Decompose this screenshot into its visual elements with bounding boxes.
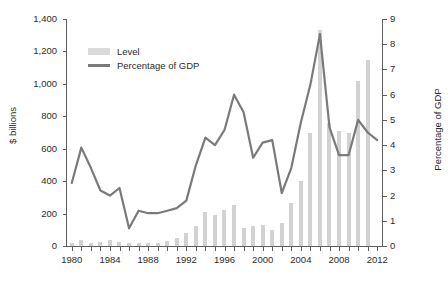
y-axis-right-tick — [383, 196, 387, 197]
legend-label-level: Level — [117, 46, 140, 57]
x-axis-tick — [186, 247, 187, 251]
y-axis-right-tick-label: 5 — [390, 114, 414, 125]
chart-container: $ billions Percentage of GDP 02004006008… — [0, 0, 448, 286]
x-axis-tick — [291, 247, 292, 251]
x-axis-tick — [158, 247, 159, 251]
legend-bar-swatch-icon — [88, 48, 110, 55]
x-axis-tick — [81, 247, 82, 251]
x-axis-tick — [205, 247, 206, 251]
x-axis-tick — [349, 247, 350, 251]
y-axis-right-tick — [383, 170, 387, 171]
y-axis-left-title: $ billions — [7, 96, 18, 156]
y-axis-right-line — [382, 19, 383, 246]
x-axis-tick-label: 1988 — [128, 254, 168, 265]
x-axis-tick — [368, 247, 369, 251]
x-axis-tick — [196, 247, 197, 251]
x-axis-tick — [282, 247, 283, 251]
y-axis-right-tick-label: 3 — [390, 164, 414, 175]
x-axis-tick — [110, 247, 111, 251]
x-axis-tick — [91, 247, 92, 251]
x-axis-tick — [244, 247, 245, 251]
y-axis-left-tick-label: 0 — [17, 240, 57, 251]
y-axis-right-tick — [383, 44, 387, 45]
chart-legend: Level Percentage of GDP — [88, 44, 199, 72]
x-axis-tick — [301, 247, 302, 251]
x-axis-tick — [320, 247, 321, 251]
legend-label-percentage-of-gdp: Percentage of GDP — [117, 60, 199, 71]
y-axis-right-tick-label: 0 — [390, 240, 414, 251]
legend-line-swatch-icon — [88, 64, 110, 67]
y-axis-right-tick — [383, 145, 387, 146]
y-axis-right-tick-label: 8 — [390, 38, 414, 49]
x-axis-tick — [177, 247, 178, 251]
y-axis-right-tick — [383, 246, 387, 247]
x-axis-tick — [100, 247, 101, 251]
y-axis-right-tick-label: 2 — [390, 190, 414, 201]
x-axis-tick — [253, 247, 254, 251]
x-axis-tick-label: 2012 — [357, 254, 397, 265]
x-axis-tick — [120, 247, 121, 251]
x-axis-tick-label: 1996 — [205, 254, 245, 265]
y-axis-left-tick-label: 1,400 — [17, 13, 57, 24]
y-axis-right-tick — [383, 221, 387, 222]
y-axis-right-tick — [383, 95, 387, 96]
x-axis-tick — [167, 247, 168, 251]
x-axis-tick-label: 2008 — [319, 254, 359, 265]
x-axis-tick — [148, 247, 149, 251]
x-axis-tick — [272, 247, 273, 251]
x-axis-tick-label: 2004 — [281, 254, 321, 265]
x-axis-line — [66, 246, 383, 247]
x-axis-tick — [310, 247, 311, 251]
x-axis-tick — [129, 247, 130, 251]
x-axis-tick — [139, 247, 140, 251]
y-axis-right-tick-label: 4 — [390, 139, 414, 150]
x-axis-tick-label: 1992 — [166, 254, 206, 265]
legend-item-level: Level — [88, 44, 199, 58]
x-axis-tick — [72, 247, 73, 251]
y-axis-left-tick-label: 1,200 — [17, 45, 57, 56]
y-axis-right-tick — [383, 19, 387, 20]
x-axis-tick — [377, 247, 378, 251]
x-axis-tick-label: 1984 — [90, 254, 130, 265]
x-axis-tick — [330, 247, 331, 251]
x-axis-tick — [358, 247, 359, 251]
y-axis-right-tick — [383, 69, 387, 70]
x-axis-tick-label: 1980 — [52, 254, 92, 265]
x-axis-tick — [339, 247, 340, 251]
legend-item-percentage-of-gdp: Percentage of GDP — [88, 58, 199, 72]
y-axis-left-tick-label: 800 — [17, 110, 57, 121]
y-axis-left-tick-label: 1,000 — [17, 78, 57, 89]
y-axis-right-tick-label: 7 — [390, 63, 414, 74]
y-axis-right-tick-label: 6 — [390, 89, 414, 100]
x-axis-tick — [234, 247, 235, 251]
x-axis-tick-label: 2000 — [243, 254, 283, 265]
y-axis-right-tick-label: 1 — [390, 215, 414, 226]
x-axis-tick — [263, 247, 264, 251]
y-axis-left-tick-label: 200 — [17, 208, 57, 219]
y-axis-right-tick — [383, 120, 387, 121]
y-axis-left-tick-label: 600 — [17, 143, 57, 154]
y-axis-right-tick-label: 9 — [390, 13, 414, 24]
y-axis-left-tick-label: 400 — [17, 175, 57, 186]
x-axis-tick — [215, 247, 216, 251]
x-axis-tick — [225, 247, 226, 251]
y-axis-right-title: Percentage of GDP — [432, 85, 443, 175]
